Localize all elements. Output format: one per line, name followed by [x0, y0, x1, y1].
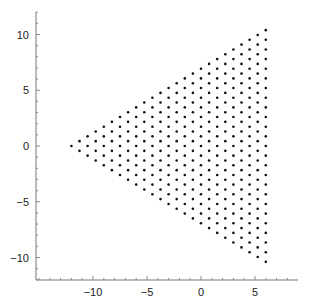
data-point: [175, 121, 178, 124]
data-point: [232, 241, 235, 244]
data-point: [208, 111, 211, 114]
data-point: [175, 111, 178, 114]
data-point: [224, 236, 227, 239]
data-point: [232, 164, 235, 167]
y-tick-label: −10: [10, 252, 29, 264]
data-point: [135, 154, 138, 157]
data-point: [224, 111, 227, 114]
data-point: [94, 159, 97, 162]
data-point: [192, 150, 195, 153]
data-point: [265, 125, 268, 128]
data-point: [151, 96, 154, 99]
data-point: [208, 82, 211, 85]
data-point: [175, 207, 178, 210]
x-axis-ticks: −10−505: [39, 276, 287, 298]
data-point: [151, 125, 154, 128]
data-point: [240, 159, 243, 162]
data-point: [111, 140, 114, 143]
data-point: [167, 116, 170, 119]
data-point: [256, 236, 259, 239]
data-point: [111, 150, 114, 153]
data-point: [175, 92, 178, 95]
data-point: [248, 48, 251, 51]
data-point: [265, 48, 268, 51]
data-point: [248, 125, 251, 128]
data-point: [265, 38, 268, 41]
data-point: [200, 154, 203, 157]
data-point: [167, 96, 170, 99]
data-point: [216, 125, 219, 128]
data-point: [127, 111, 130, 114]
data-point: [94, 150, 97, 153]
data-point: [135, 135, 138, 138]
data-point: [192, 207, 195, 210]
data-point: [200, 67, 203, 70]
x-tick-label: −10: [84, 286, 103, 298]
data-point: [119, 174, 122, 177]
x-tick-label: −5: [141, 286, 154, 298]
data-point: [216, 154, 219, 157]
data-point: [135, 116, 138, 119]
data-point: [192, 198, 195, 201]
data-point: [159, 111, 162, 114]
data-point: [192, 121, 195, 124]
data-point: [151, 116, 154, 119]
data-point: [265, 212, 268, 215]
data-point: [94, 130, 97, 133]
data-point: [184, 77, 187, 80]
data-point: [216, 135, 219, 138]
data-point: [70, 145, 73, 148]
data-point: [200, 77, 203, 80]
data-point: [256, 217, 259, 220]
data-point: [240, 92, 243, 95]
data-point: [248, 193, 251, 196]
y-tick-label: 0: [23, 140, 29, 152]
data-point: [159, 101, 162, 104]
data-point: [232, 87, 235, 90]
data-point: [159, 140, 162, 143]
data-point: [256, 53, 259, 56]
data-point: [151, 183, 154, 186]
data-point: [192, 188, 195, 191]
data-point: [265, 164, 268, 167]
data-point: [232, 135, 235, 138]
data-point: [240, 101, 243, 104]
data-point: [208, 169, 211, 172]
data-point: [248, 87, 251, 90]
data-point: [151, 154, 154, 157]
data-point: [175, 159, 178, 162]
data-point: [240, 72, 243, 75]
data-point: [265, 116, 268, 119]
data-point: [265, 203, 268, 206]
data-point: [256, 130, 259, 133]
data-point: [256, 207, 259, 210]
data-point: [184, 193, 187, 196]
data-point: [248, 232, 251, 235]
data-point: [159, 150, 162, 153]
data-point: [216, 87, 219, 90]
data-point: [143, 150, 146, 153]
data-point: [192, 111, 195, 114]
data-point: [184, 145, 187, 148]
data-point: [248, 38, 251, 41]
data-point: [159, 179, 162, 182]
data-point: [167, 203, 170, 206]
data-point: [200, 106, 203, 109]
data-point: [184, 135, 187, 138]
data-point: [208, 63, 211, 66]
data-point: [216, 145, 219, 148]
data-point: [175, 140, 178, 143]
data-point: [167, 154, 170, 157]
data-point: [135, 174, 138, 177]
data-point: [256, 43, 259, 46]
data-point: [256, 246, 259, 249]
data-point: [224, 101, 227, 104]
data-point: [216, 116, 219, 119]
data-point: [232, 222, 235, 225]
data-point: [232, 145, 235, 148]
data-point: [216, 212, 219, 215]
data-point: [167, 193, 170, 196]
data-point: [151, 135, 154, 138]
data-point: [265, 135, 268, 138]
data-point: [184, 87, 187, 90]
